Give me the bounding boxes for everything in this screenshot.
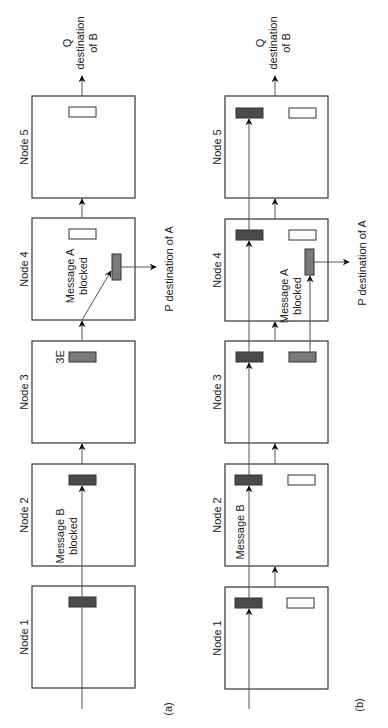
node-label-b1: Node 1 [211,620,223,655]
dest-b-q-a: Q [61,38,73,47]
dest-b-destination-b: destination [267,16,279,69]
buffer-b3-message-b [236,352,263,362]
deadlock-diagram: Node 5 Node 4 Node 3 Node 2 Node 1 Messa… [0,0,388,728]
dest-b-q-b: Q [254,38,266,47]
message-a-blocked-b: blocked [291,277,303,315]
buffer-b5-empty [289,108,316,118]
node-label-b4: Node 4 [211,252,223,287]
message-b-blocked-a: blocked [67,517,79,555]
buffer-b4-message-a [305,249,314,275]
buffer-b4-empty [289,230,316,240]
buffer-a5-empty [69,107,96,117]
buffer-a4-empty [69,229,96,239]
buffer-a2-message-b [69,475,96,485]
dest-a-label-b: P destination of A [356,220,368,306]
message-a-label-b: Message A [278,268,290,323]
message-b-label-a: Message B [54,508,66,563]
caption-b: (b) [353,698,365,711]
message-b-label-b: Message B [234,504,246,559]
dest-b-ofb-b: of B [280,33,292,53]
dest-a-label-a: P destination of A [163,226,175,312]
buffer-b1-empty [287,598,314,608]
buffer-3e-label: 3E [54,350,66,363]
node-label-b5: Node 5 [211,129,223,164]
node-label-b3: Node 3 [211,374,223,409]
buffer-b3-message-a [289,352,316,362]
node-label-a1: Node 1 [18,619,30,654]
buffer-a4-message-a [112,254,121,280]
node-label-b2: Node 2 [211,497,223,532]
panel-a: Node 5 Node 4 Node 3 Node 2 Node 1 Messa… [18,16,175,715]
buffer-b2-message-b [235,475,262,485]
caption-a: (a) [162,702,174,715]
node-label-a3: Node 3 [18,374,30,409]
message-a-blocked-a: blocked [77,257,89,295]
panel-b: Node 5 Node 4 Node 3 Node 2 Node 1 Messa… [211,16,368,711]
buffer-a3-3e [69,352,96,362]
node-label-a5: Node 5 [18,129,30,164]
buffer-b2-empty [288,475,315,485]
message-a-label-a: Message A [64,248,76,303]
buffer-b1-message-b [235,598,262,608]
buffer-b4-message-b [236,230,263,240]
node-label-a2: Node 2 [18,497,30,532]
buffer-b5-message-b [236,108,263,118]
node-label-a4: Node 4 [18,251,30,286]
dest-b-destination-a: destination [74,16,86,69]
dest-b-ofb-a: of B [87,33,99,53]
